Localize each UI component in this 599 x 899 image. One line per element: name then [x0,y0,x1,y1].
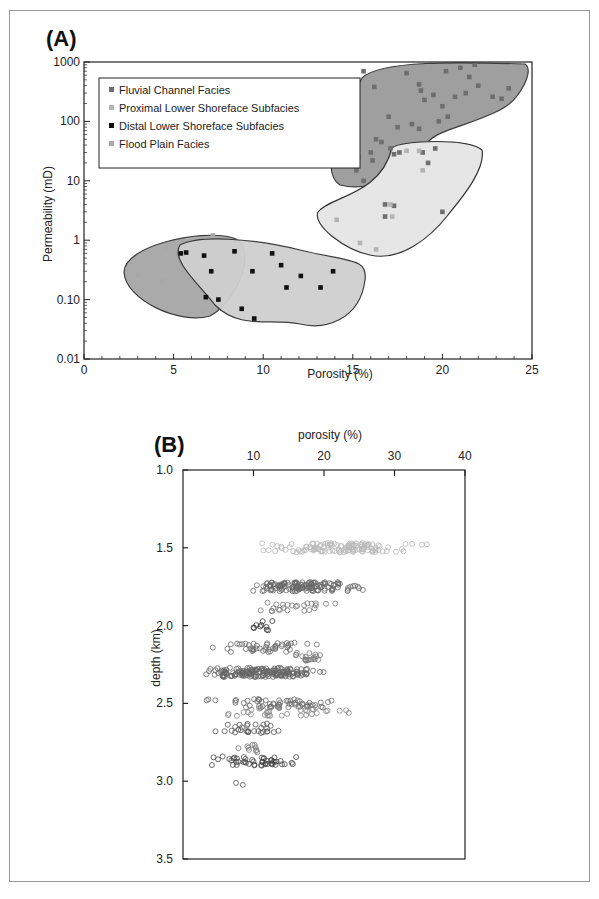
data-point [393,549,398,554]
data-point [458,65,463,70]
data-point [383,202,388,207]
data-point [309,712,314,717]
data-point [239,307,244,312]
data-point [476,83,481,88]
data-point [252,316,257,321]
data-point [318,285,323,290]
data-point [210,645,215,650]
data-point [135,273,140,278]
data-point [225,646,230,651]
y-tick-label: 3.0 [156,774,173,788]
data-point [273,549,278,554]
data-point [424,542,429,547]
legend: Fluvial Channel FaciesProximal Lower Sho… [99,78,360,168]
y-tick-label: 10 [67,174,81,188]
y-tick-label: 100 [60,114,80,128]
data-point [422,98,427,103]
x-axis-label: porosity (%) [298,428,362,442]
data-point [383,214,388,219]
data-point [445,114,450,119]
x-tick-label: 5 [170,363,177,377]
data-point [331,269,336,274]
legend-label: Fluvial Channel Facies [119,84,231,96]
data-point [311,668,316,673]
y-axis-label: depth (km) [149,629,163,686]
data-point [361,69,366,74]
data-point [211,233,216,238]
data-point [270,251,275,256]
y-tick-label: 0.10 [57,293,81,307]
data-point [240,782,245,787]
data-point [420,168,425,173]
data-point [292,640,297,645]
legend-swatch [109,105,114,110]
data-point [204,672,209,677]
data-point [419,88,424,93]
data-point [404,148,409,153]
legend-label: Proximal Lower Shoreface Subfacies [119,102,300,114]
data-point [204,295,209,300]
data-point [390,214,395,219]
data-point [164,245,169,250]
x-axis-label: Porosity (%) [307,367,372,381]
data-point [453,94,458,99]
data-point [298,713,303,718]
y-tick-label: 1 [73,233,80,247]
panel-a-label: (A) [46,26,77,51]
data-point [254,583,259,588]
plot-frame [183,470,465,859]
data-point [209,763,214,768]
data-point [270,619,275,624]
data-point [284,285,289,290]
data-point [279,713,284,718]
data-point [307,651,312,656]
y-axis-label: Permeability (mD) [41,166,55,262]
legend-swatch [109,123,114,128]
x-tick-label: 25 [525,363,539,377]
data-point [463,91,468,96]
data-point [506,86,511,91]
data-point [294,755,299,760]
data-point [268,723,273,728]
data-point [440,210,445,215]
data-point [388,202,393,207]
data-point [372,85,377,90]
data-point [270,542,275,547]
data-point [265,600,270,605]
data-point [392,152,397,157]
y-tick-label: 0.01 [57,352,81,366]
data-point [258,608,263,613]
data-point [291,549,296,554]
depth-porosity-chart: 102030401.01.52.02.53.03.5 porosity (%) … [149,428,472,866]
data-point [440,104,445,109]
data-point [302,608,307,613]
data-point [220,754,225,759]
data-point [161,278,166,283]
data-point [279,263,284,268]
data-point [417,82,422,87]
data-point [215,666,220,671]
data-point [285,711,290,716]
y-tick-label: 2.5 [156,696,173,710]
y-tick-label: 3.5 [156,852,173,866]
x-tick-label: 20 [317,449,331,463]
data-point [250,269,255,274]
data-point [374,137,379,142]
data-point [300,654,305,659]
data-point [307,608,312,613]
data-point [289,760,294,765]
data-point [467,75,472,80]
data-point [379,140,384,145]
permeability-porosity-chart: 05101520250.010.101101001000 Fluvial Cha… [41,55,539,381]
data-point [266,548,271,553]
data-point [261,548,266,553]
data-point [200,310,205,315]
data-point [209,269,214,274]
x-tick-label: 0 [81,363,88,377]
data-point [417,127,422,132]
x-tick-label: 10 [247,449,261,463]
data-point [419,542,424,547]
data-point [204,698,209,703]
panel-b-label: (B) [154,432,185,457]
data-point [499,97,504,102]
